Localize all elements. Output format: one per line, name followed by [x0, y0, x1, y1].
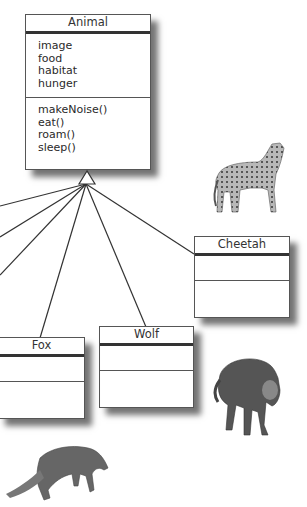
methods-section — [100, 371, 193, 375]
methods-section — [195, 281, 289, 285]
class-name: Wolf — [100, 327, 193, 346]
class-cheetah: Cheetah — [194, 236, 290, 318]
cheetah-image — [210, 140, 290, 222]
fox-image — [0, 430, 115, 507]
class-wolf: Wolf — [99, 326, 194, 408]
attributes-section — [0, 357, 84, 382]
wolf-image — [210, 350, 295, 440]
class-name: Fox — [0, 338, 84, 357]
methods-section — [0, 382, 84, 386]
attributes-section — [195, 256, 289, 281]
attributes-section — [100, 346, 193, 371]
class-name: Cheetah — [195, 237, 289, 256]
class-fox: Fox — [0, 337, 85, 419]
